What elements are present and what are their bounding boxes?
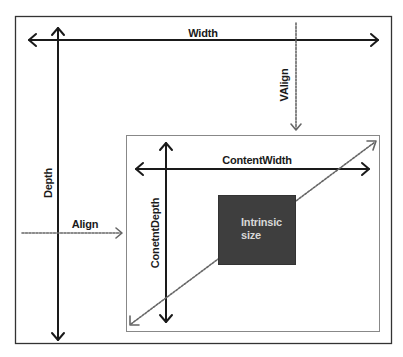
align-label: Align: [72, 218, 99, 230]
width-label: Width: [188, 27, 217, 39]
intrinsic-size-box: Intrinsic size: [218, 195, 296, 265]
valign-label: VAlign: [278, 69, 290, 102]
layout-diagram: Intrinsic size Width Depth VAlign Align …: [0, 0, 403, 357]
depth-label: Depth: [42, 168, 54, 198]
outer-container: [16, 17, 392, 344]
content-width-label: ContentWidth: [222, 154, 292, 166]
diagram-canvas: [0, 0, 403, 357]
intrinsic-size-label: Intrinsic size: [241, 216, 282, 242]
content-depth-label: ConetntDepth: [149, 198, 161, 268]
